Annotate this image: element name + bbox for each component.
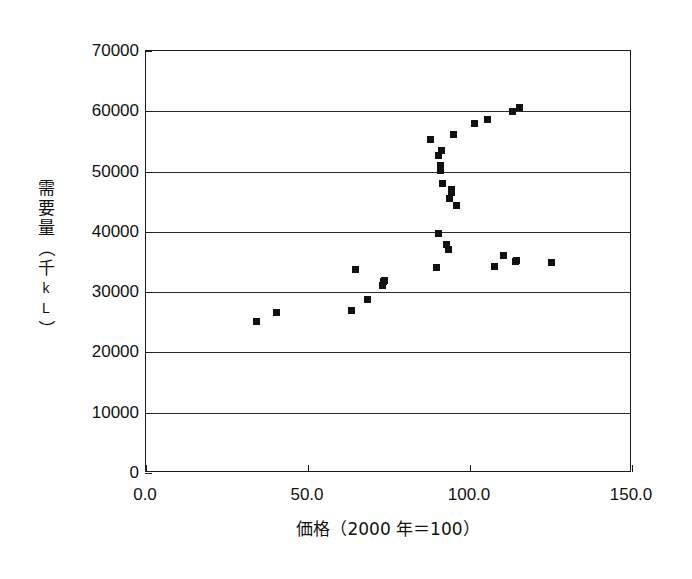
data-point [448,189,455,196]
x-tick-label-50: 50.0 [267,486,347,503]
data-point [500,252,507,259]
y-tickmark-20000 [145,352,152,353]
x-axis-title: 価格（2000 年＝100） [145,515,631,540]
data-point [453,202,460,209]
data-point [450,131,457,138]
data-point [348,307,355,314]
data-point [273,309,280,316]
plot-area [145,50,631,472]
data-point [509,108,516,115]
gridline-y-40000 [146,232,630,233]
y-tickmark-50000 [145,172,152,173]
gridline-y-20000 [146,352,630,353]
data-point [253,318,260,325]
data-point [548,259,555,266]
gridline-y-30000 [146,292,630,293]
data-point [438,147,445,154]
data-point [491,263,498,270]
y-tickmark-60000 [145,111,152,112]
gridline-y-60000 [146,111,630,112]
y-tickmark-30000 [145,292,152,293]
data-point [471,120,478,127]
y-tickmark-0 [145,473,152,474]
x-tick-label-150: 150.0 [591,486,671,503]
data-point [381,277,388,284]
x-tick-label-0: 0.0 [105,486,185,503]
data-point [445,246,452,253]
y-tickmark-40000 [145,232,152,233]
scatter-chart-figure: 需 要 量 （ 千 k L ） 010000200003000040000500… [0,0,692,579]
gridline-y-50000 [146,172,630,173]
data-point [513,257,520,264]
data-point [427,136,434,143]
x-tickmark-100 [470,465,471,472]
data-point [484,116,491,123]
x-tickmark-0 [146,465,147,472]
gridline-y-10000 [146,413,630,414]
data-point [439,180,446,187]
data-point [446,195,453,202]
y-tickmark-10000 [145,413,152,414]
data-point [516,104,523,111]
data-point [352,266,359,273]
y-tickmark-70000 [145,51,152,52]
data-point [437,167,444,174]
data-point [433,264,440,271]
x-tickmark-50 [308,465,309,472]
data-point [435,230,442,237]
x-tickmark-150 [632,465,633,472]
x-tick-label-100: 100.0 [429,486,509,503]
data-point [364,296,371,303]
